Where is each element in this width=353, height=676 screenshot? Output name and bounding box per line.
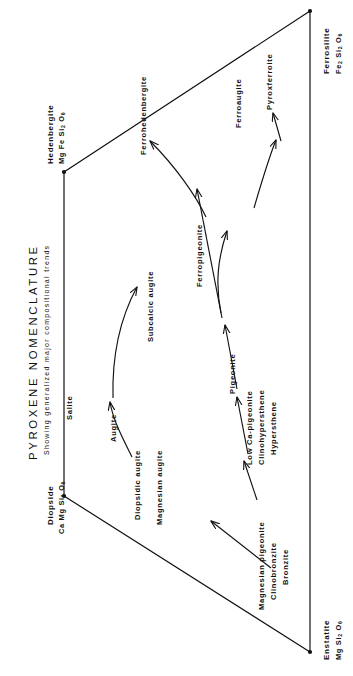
corner-label-diopside: Diopside (47, 486, 55, 525)
vertex-enstatite (308, 650, 312, 654)
field-label-low-ca-pigeonite: Low Ca-pigeonite (246, 391, 254, 465)
corner-formula-ferrosilite: Fe2 Si2 O6 (335, 33, 342, 74)
field-label-diopsidic-augite: Diopsidic augite (134, 450, 142, 520)
field-label-magnesian-augite: Magnesian augite (156, 450, 164, 525)
field-label-subcalcic-augite: Subcalcic augite (147, 271, 155, 342)
page-title: PYROXENE NOMENCLATURE (28, 244, 39, 460)
corner-label-enstatite: Enstatite (323, 620, 331, 660)
pyroxene-nomenclature-figure: PYROXENE NOMENCLATURE Showing generalize… (0, 0, 353, 676)
field-label-hypersthene: Hypersthene (270, 401, 278, 455)
quadrilateral-diagram (0, 0, 353, 676)
arrow-subcalcic-to-ferrohedenbergite (150, 141, 206, 217)
corner-formula-enstatite: Mg Si2 O6 (335, 620, 342, 660)
field-label-bronzite: Bronzite (282, 549, 290, 585)
arrow-augite-to-subcalcic (113, 287, 137, 398)
page-subtitle: Showing generalized major compositional … (43, 245, 50, 455)
field-label-pyroxferroite: Pyroxferroite (266, 54, 274, 110)
field-label-magnesian-pigeonite: Magnesian pigeonite (258, 522, 266, 610)
vertex-hedenbergite (62, 170, 66, 174)
field-label-ferrohedenbergite: Ferrohedenbergite (140, 76, 148, 155)
field-label-pigeonite: Pigeonite (229, 354, 237, 394)
field-label-salite: Salite (66, 396, 74, 420)
vertex-ferrosilite (308, 9, 312, 13)
field-label-augite: Augite (110, 414, 118, 442)
arrow-pyroxferroite-tip (273, 113, 281, 141)
field-label-clinohypersthene: Clinohypersthene (258, 390, 266, 465)
arrow-to-ferroaugite (218, 231, 227, 313)
corner-formula-diopside: Ca Mg Si2 O6 (58, 481, 65, 534)
corner-formula-hedenbergite: Mg Fe Si2 O6 (58, 112, 65, 164)
corner-label-hedenbergite: Hedenbergite (47, 104, 55, 164)
field-label-ferroaugite: Ferroaugite (235, 79, 243, 128)
field-label-ferropigeonite: Ferropigeonite (196, 224, 204, 287)
arrow-clinobronzite-to-lowca-pigeonite (244, 461, 257, 500)
arrow-to-pyroxferroite (254, 140, 276, 208)
field-label-clinobronzite: Clinobronzite (270, 542, 278, 600)
corner-label-ferrosilite: Ferrosilite (323, 28, 331, 74)
